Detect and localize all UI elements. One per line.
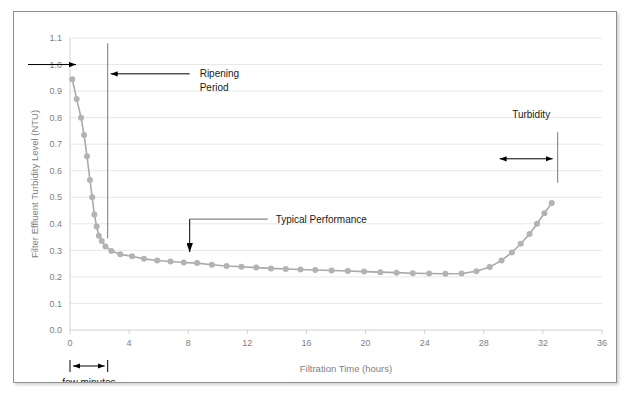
series-data-point: [549, 200, 555, 206]
series-data-point: [534, 221, 540, 227]
series-data-point: [99, 238, 105, 244]
series-data-point: [268, 265, 274, 271]
series-data-point: [154, 257, 160, 263]
series-data-point: [283, 266, 289, 272]
series-data-point: [74, 96, 80, 102]
x-tick-label: 4: [127, 338, 132, 348]
y-tick-label: 0.2: [49, 272, 62, 282]
y-tick-label: 0.6: [49, 166, 62, 176]
few-minutes-label: few minutes: [62, 377, 115, 382]
y-tick-label: 0.4: [49, 219, 62, 229]
series-data-point: [129, 253, 135, 259]
series-line: [72, 79, 552, 274]
series-data-point: [194, 260, 200, 266]
series-data-point: [96, 233, 102, 239]
y-tick-label: 0.1: [49, 299, 62, 309]
series-data-point: [459, 270, 465, 276]
axis-lines: [70, 38, 602, 334]
series-data-point: [426, 270, 432, 276]
series-data-point: [487, 264, 493, 270]
series-data-point: [499, 257, 505, 263]
series-data-point: [253, 265, 259, 271]
series-data-point: [238, 264, 244, 270]
series-data-point: [410, 270, 416, 276]
ripening-period-label-line2: Period: [200, 82, 229, 93]
y-tick-label: 0.8: [49, 113, 62, 123]
series-data-point: [69, 76, 75, 82]
x-tick-label: 36: [597, 338, 607, 348]
turbidity-label: Turbidity: [512, 109, 550, 120]
y-tick-label: 0.0: [49, 325, 62, 335]
y-tick-label: 0.7: [49, 139, 62, 149]
series-data-point: [117, 251, 123, 257]
y-axis-title: Filter Effluent Turbidity Level (NTU): [29, 110, 40, 258]
series-data-point: [89, 194, 95, 200]
annotation-group: RipeningPeriodTypical PerformanceTurbidi…: [28, 43, 558, 382]
series-data-point: [394, 270, 400, 276]
series-data-point: [108, 248, 114, 254]
series-data-point: [224, 263, 230, 269]
x-tick-label: 8: [186, 338, 191, 348]
series-data-point: [102, 243, 108, 249]
series-data-point: [527, 231, 533, 237]
series-data-point: [518, 241, 524, 247]
series-data-point: [473, 268, 479, 274]
series-data-point: [312, 267, 318, 273]
series-data-point: [345, 268, 351, 274]
series-data-point: [87, 177, 93, 183]
series-data-point: [94, 223, 100, 229]
ripening-period-label-line1: Ripening: [200, 68, 239, 79]
series-group: [69, 76, 555, 277]
series-data-point: [78, 115, 84, 121]
x-tick-label: 20: [361, 338, 371, 348]
figure-frame: 0.00.10.20.30.40.50.60.70.80.91.01.1 048…: [13, 11, 617, 383]
x-tick-label: 24: [420, 338, 430, 348]
grid-lines: [70, 38, 602, 303]
series-data-point: [209, 262, 215, 268]
y-tick-label: 0.3: [49, 246, 62, 256]
series-data-point: [509, 249, 515, 255]
x-tick-label: 16: [301, 338, 311, 348]
y-tick-label: 0.5: [49, 192, 62, 202]
typical-performance-label: Typical Performance: [276, 214, 368, 225]
x-tick-label: 12: [242, 338, 252, 348]
x-tick-labels: 04812162024283236: [67, 338, 607, 348]
y-tick-labels: 0.00.10.20.30.40.50.60.70.80.91.01.1: [49, 33, 62, 335]
series-data-point: [361, 269, 367, 275]
series-data-point: [81, 132, 87, 138]
x-tick-label: 0: [67, 338, 72, 348]
x-axis-title: Filtration Time (hours): [300, 363, 392, 374]
y-tick-label: 1.1: [49, 33, 62, 43]
series-data-point: [167, 259, 173, 265]
turbidity-line-chart: 0.00.10.20.30.40.50.60.70.80.91.01.1 048…: [14, 12, 616, 382]
x-tick-label: 32: [538, 338, 548, 348]
y-tick-label: 0.9: [49, 86, 62, 96]
series-data-point: [541, 210, 547, 216]
series-data-point: [141, 256, 147, 262]
x-tick-label: 28: [479, 338, 489, 348]
series-data-point: [442, 271, 448, 277]
series-data-point: [298, 266, 304, 272]
series-data-point: [84, 153, 90, 159]
series-data-point: [377, 269, 383, 275]
series-data-point: [91, 212, 97, 218]
series-data-point: [181, 260, 187, 266]
series-data-point: [329, 268, 335, 274]
